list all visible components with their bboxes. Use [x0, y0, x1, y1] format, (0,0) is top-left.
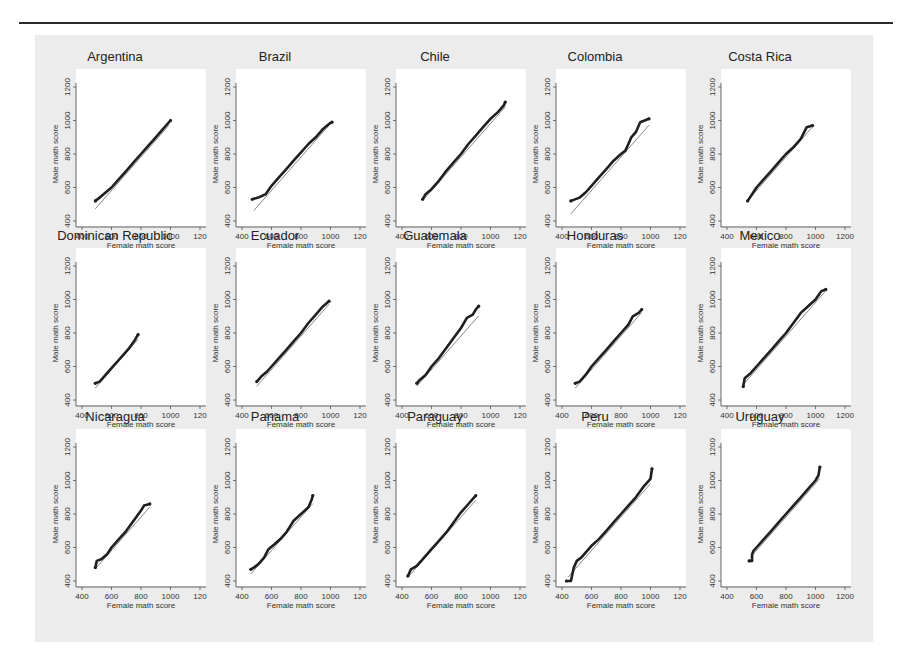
- svg-text:1200: 1200: [223, 78, 232, 96]
- qq-plot: 400600800100012040060080010001200Female …: [35, 409, 210, 609]
- svg-text:400: 400: [63, 574, 72, 588]
- svg-text:Female math score: Female math score: [427, 601, 496, 610]
- panel-chile: Chile400600800100012040060080010001200Fe…: [355, 49, 515, 231]
- svg-text:800: 800: [543, 507, 552, 521]
- svg-text:800: 800: [63, 326, 72, 340]
- panel-dominican-republic: Dominican Republic4006008001000120400600…: [35, 228, 195, 410]
- svg-text:800: 800: [708, 507, 717, 521]
- svg-text:400: 400: [63, 214, 72, 228]
- svg-text:600: 600: [105, 592, 119, 601]
- svg-text:Female math score: Female math score: [752, 601, 821, 610]
- figure-grid: Argentina4006008001000120400600800100012…: [35, 35, 873, 642]
- svg-text:600: 600: [223, 180, 232, 194]
- svg-text:1200: 1200: [708, 257, 717, 275]
- svg-text:600: 600: [383, 540, 392, 554]
- qq-plot: 400600800100012040060080010001200Female …: [35, 49, 210, 249]
- svg-text:400: 400: [223, 214, 232, 228]
- svg-text:1000: 1000: [807, 592, 825, 601]
- qq-plot: 4006008001000120040060080010001200Female…: [680, 409, 855, 609]
- svg-text:800: 800: [708, 326, 717, 340]
- svg-text:Male math score: Male math score: [696, 303, 705, 363]
- svg-text:Male math score: Male math score: [531, 484, 540, 544]
- panel-mexico: Mexico4006008001000120040060080010001200…: [680, 228, 840, 410]
- svg-text:800: 800: [134, 592, 148, 601]
- panel-ecuador: Ecuador400600800100012040060080010001200…: [195, 228, 355, 410]
- svg-text:Male math score: Male math score: [51, 124, 60, 184]
- svg-text:400: 400: [395, 592, 409, 601]
- svg-text:1200: 1200: [63, 257, 72, 275]
- svg-text:400: 400: [555, 592, 569, 601]
- svg-text:1200: 1200: [543, 438, 552, 456]
- svg-text:600: 600: [223, 540, 232, 554]
- svg-text:1000: 1000: [482, 592, 500, 601]
- svg-text:Male math score: Male math score: [531, 124, 540, 184]
- svg-text:1200: 1200: [223, 257, 232, 275]
- svg-text:800: 800: [63, 507, 72, 521]
- svg-text:1000: 1000: [223, 471, 232, 489]
- svg-text:Male math score: Male math score: [51, 484, 60, 544]
- svg-text:800: 800: [454, 592, 468, 601]
- svg-text:800: 800: [383, 507, 392, 521]
- svg-text:600: 600: [265, 592, 279, 601]
- svg-text:1200: 1200: [708, 78, 717, 96]
- svg-text:1000: 1000: [223, 290, 232, 308]
- svg-text:600: 600: [383, 359, 392, 373]
- svg-text:400: 400: [720, 592, 734, 601]
- svg-text:400: 400: [235, 592, 249, 601]
- svg-text:800: 800: [614, 592, 628, 601]
- svg-text:400: 400: [383, 214, 392, 228]
- svg-text:600: 600: [543, 180, 552, 194]
- qq-plot: 400600800100012040060080010001200Female …: [355, 49, 530, 249]
- svg-text:1000: 1000: [223, 111, 232, 129]
- svg-text:1000: 1000: [708, 111, 717, 129]
- svg-text:1200: 1200: [383, 257, 392, 275]
- panel-nicaragua: Nicaragua4006008001000120400600800100012…: [35, 409, 195, 591]
- svg-text:400: 400: [223, 574, 232, 588]
- svg-text:400: 400: [708, 393, 717, 407]
- svg-text:Male math score: Male math score: [211, 484, 220, 544]
- svg-text:1000: 1000: [383, 290, 392, 308]
- svg-text:400: 400: [383, 574, 392, 588]
- panel-brazil: Brazil400600800100012040060080010001200F…: [195, 49, 355, 231]
- svg-text:1200: 1200: [63, 78, 72, 96]
- svg-text:Female math score: Female math score: [107, 601, 176, 610]
- svg-text:Male math score: Male math score: [371, 484, 380, 544]
- svg-text:600: 600: [425, 592, 439, 601]
- svg-text:1200: 1200: [383, 438, 392, 456]
- panel-argentina: Argentina4006008001000120400600800100012…: [35, 49, 195, 231]
- svg-text:1000: 1000: [543, 471, 552, 489]
- svg-text:800: 800: [543, 147, 552, 161]
- svg-text:600: 600: [543, 540, 552, 554]
- qq-plot: 400600800100012040060080010001200Female …: [515, 409, 690, 609]
- svg-text:Male math score: Male math score: [371, 303, 380, 363]
- svg-text:1000: 1000: [63, 290, 72, 308]
- svg-text:1200: 1200: [708, 438, 717, 456]
- svg-text:600: 600: [708, 180, 717, 194]
- svg-text:600: 600: [63, 359, 72, 373]
- panel-uruguay: Uruguay400600800100012004006008001000120…: [680, 409, 840, 591]
- svg-text:1000: 1000: [63, 471, 72, 489]
- svg-text:Male math score: Male math score: [696, 484, 705, 544]
- svg-text:1200: 1200: [543, 78, 552, 96]
- qq-plot: 400600800100012040060080010001200Female …: [355, 228, 530, 428]
- top-rule: [19, 22, 893, 24]
- qq-plot: 400600800100012040060080010001200Female …: [515, 228, 690, 428]
- svg-text:400: 400: [543, 574, 552, 588]
- svg-text:1000: 1000: [543, 111, 552, 129]
- svg-text:1200: 1200: [543, 257, 552, 275]
- qq-plot: 400600800100012040060080010001200Female …: [195, 49, 370, 249]
- svg-text:Male math score: Male math score: [531, 303, 540, 363]
- svg-text:800: 800: [63, 147, 72, 161]
- svg-text:600: 600: [223, 359, 232, 373]
- svg-text:Male math score: Male math score: [211, 303, 220, 363]
- svg-text:1200: 1200: [383, 78, 392, 96]
- svg-text:600: 600: [750, 592, 764, 601]
- svg-text:Female math score: Female math score: [587, 601, 656, 610]
- svg-text:800: 800: [294, 592, 308, 601]
- svg-text:Male math score: Male math score: [51, 303, 60, 363]
- svg-text:1000: 1000: [383, 111, 392, 129]
- svg-text:1200: 1200: [63, 438, 72, 456]
- panel-panama: Panama400600800100012040060080010001200F…: [195, 409, 355, 591]
- svg-text:1000: 1000: [322, 592, 340, 601]
- svg-text:1000: 1000: [543, 290, 552, 308]
